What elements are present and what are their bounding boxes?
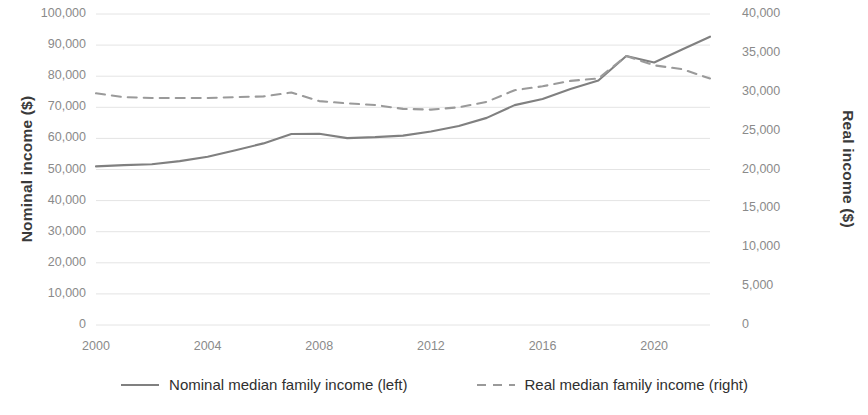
plot-area <box>0 0 868 415</box>
legend-entry-nominal: Nominal median family income (left) <box>120 376 407 393</box>
legend-swatch-dashed-icon <box>476 379 516 391</box>
series-line-real <box>96 56 710 110</box>
series-line-nominal <box>96 37 710 167</box>
gridlines <box>96 14 710 325</box>
chart-legend: Nominal median family income (left) Real… <box>0 376 868 393</box>
series-lines <box>96 37 710 167</box>
chart-figure: Nominal income ($) Real income ($) 010,0… <box>0 0 868 415</box>
legend-entry-real: Real median family income (right) <box>476 376 748 393</box>
legend-label-nominal: Nominal median family income (left) <box>169 376 407 393</box>
legend-label-real: Real median family income (right) <box>525 376 748 393</box>
legend-swatch-solid-icon <box>120 379 160 391</box>
